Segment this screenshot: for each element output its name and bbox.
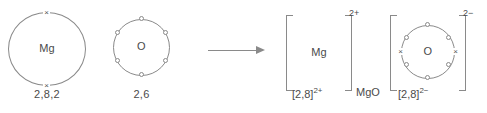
oxide-ion-transferred-electron-cross-right: × [452,48,459,55]
reaction-arrow-head [256,46,265,54]
oxide-ion-transferred-electron-cross-left: × [397,48,404,55]
magnesium-electron-cross-top: × [43,9,50,16]
oxide-ion-configuration-label: [2,8]2− [398,86,428,100]
oxide-ion-bracket-right [459,15,466,91]
magnesium-ion-configuration-charge: 2+ [313,86,322,95]
oxygen-configuration-label: 2,6 [113,88,170,100]
magnesium-configuration-label: 2,8,2 [8,88,86,100]
oxide-ion-configuration-charge: 2− [419,86,428,95]
magnesium-atom-group: Mg × × [8,12,86,86]
oxide-ion-shell-group: O × × [401,25,455,79]
oxygen-electron-dot-1 [139,16,144,21]
magnesium-ion-configuration-text: [2,8] [292,88,313,100]
compound-formula-label: MgO [356,86,380,98]
ionic-bonding-diagram: Mg × × 2,8,2 O 2,6 Mg 2+ [2,8]2+ MgO [0,0,487,113]
oxide-ion-electron-dot-4 [425,75,430,80]
oxygen-electron-dot-3 [163,58,168,63]
oxide-ion-symbol: O [401,45,455,57]
oxide-ion-electron-dot-2 [446,35,451,40]
magnesium-ion-bracket-charge: 2+ [349,8,359,18]
oxide-ion-electron-dot-1 [425,22,430,27]
reaction-arrow [208,46,266,55]
reaction-arrow-shaft [208,50,258,51]
magnesium-ion-group: Mg [286,15,352,91]
oxygen-electron-dot-5 [115,58,120,63]
oxygen-electron-dot-4 [139,72,144,77]
oxide-ion-bracket-left [390,15,397,91]
oxygen-electron-dot-6 [115,30,120,35]
oxide-ion-electron-dot-6 [404,35,409,40]
oxygen-atom-group: O [113,19,170,76]
oxide-ion-electron-dot-5 [404,62,409,67]
oxide-ion-electron-dot-3 [446,62,451,67]
oxide-ion-group: O × × [390,15,466,91]
oxygen-symbol: O [113,40,170,52]
oxide-ion-bracket-charge: 2− [463,8,473,18]
oxygen-electron-dot-2 [163,30,168,35]
magnesium-ion-configuration-label: [2,8]2+ [292,86,322,100]
magnesium-symbol: Mg [8,42,86,54]
oxide-ion-configuration-text: [2,8] [398,88,419,100]
magnesium-ion-symbol: Mg [286,46,352,58]
